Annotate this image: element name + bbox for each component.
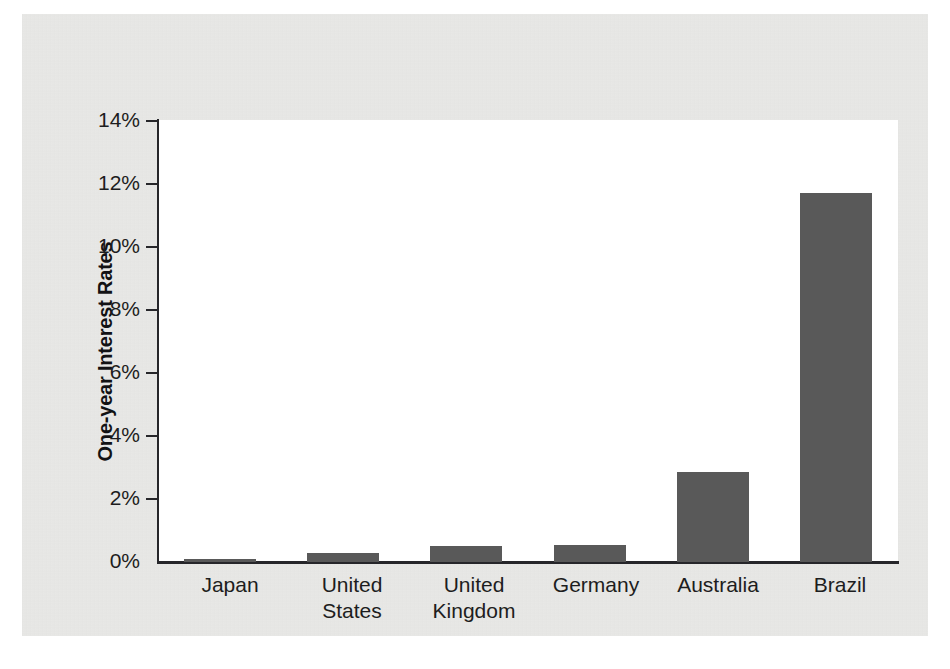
x-label-germany: Germany [526, 572, 666, 598]
bar-united-kingdom [430, 546, 502, 562]
bar-japan [184, 559, 256, 562]
y-tick-label-12: 12% [80, 171, 140, 195]
bar-australia [677, 472, 749, 562]
y-tick-label-10: 10% [80, 234, 140, 258]
x-axis-line [157, 561, 899, 564]
bar-united-states [307, 553, 379, 562]
y-tick-label-14: 14% [80, 108, 140, 132]
y-tick-label-0: 0% [80, 549, 140, 573]
bar-germany [554, 545, 626, 562]
x-label-australia: Australia [648, 572, 788, 598]
bar-chart: One-year Interest Rates 14% 12% 10% 8% 6… [0, 0, 950, 669]
x-label-united-kingdom: United Kingdom [404, 572, 544, 624]
y-tick-label-6: 6% [80, 360, 140, 384]
x-label-united-states: United States [282, 572, 422, 624]
x-label-japan: Japan [160, 572, 300, 598]
plot-area [158, 120, 898, 562]
bar-brazil [800, 193, 872, 562]
x-label-brazil: Brazil [770, 572, 910, 598]
scanned-page-sheet: Financial Genter M One-year Interest Rat… [0, 0, 950, 669]
y-tick-label-4: 4% [80, 423, 140, 447]
y-axis-line [157, 119, 159, 564]
y-tick-label-8: 8% [80, 297, 140, 321]
y-tick-label-2: 2% [80, 486, 140, 510]
